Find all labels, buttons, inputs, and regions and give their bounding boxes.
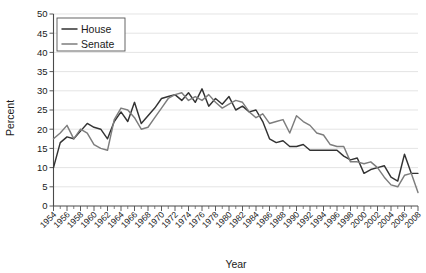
y-tick-label: 20 (37, 124, 48, 135)
series-line-house (54, 89, 419, 181)
line-chart: 05101520253035404550 1954195619581960196… (0, 0, 426, 273)
y-axis-ticks-group (50, 14, 54, 206)
x-axis-labels-group: 1954195619581960196219641966196819701972… (38, 209, 423, 230)
legend-label-house: House (81, 23, 112, 35)
x-axis-title: Year (225, 258, 247, 270)
y-tick-label: 5 (42, 181, 47, 192)
y-tick-label: 40 (37, 47, 48, 58)
y-tick-label: 25 (37, 104, 48, 115)
x-axis-ticks-group (54, 206, 419, 211)
y-tick-label: 10 (37, 162, 48, 173)
y-tick-label: 0 (42, 200, 47, 211)
series-line-senate (54, 93, 419, 193)
data-series-group (54, 89, 419, 193)
y-tick-label: 35 (37, 66, 48, 77)
y-tick-label: 50 (37, 8, 48, 19)
y-tick-label: 15 (37, 143, 48, 154)
y-axis-labels-group: 05101520253035404550 (37, 8, 48, 211)
y-tick-label: 45 (37, 28, 48, 39)
y-tick-label: 30 (37, 85, 48, 96)
y-axis-title: Percent (4, 100, 16, 136)
legend-label-senate: Senate (81, 38, 114, 50)
x-tick-label: 2008 (402, 209, 423, 230)
chart-canvas: 05101520253035404550 1954195619581960196… (0, 0, 426, 273)
chart-legend: HouseSenate (57, 18, 125, 51)
